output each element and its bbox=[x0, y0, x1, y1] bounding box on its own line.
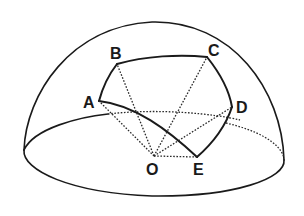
arc-EA bbox=[99, 101, 197, 157]
radius-OE bbox=[154, 156, 197, 157]
arc-DE bbox=[197, 107, 232, 157]
label-E: E bbox=[193, 161, 204, 178]
hemisphere-dome-outline bbox=[24, 22, 284, 160]
radius-OA bbox=[99, 101, 154, 156]
arc-BC bbox=[117, 56, 207, 64]
label-B: B bbox=[110, 45, 122, 62]
hemisphere-diagram: A B C D E O bbox=[0, 0, 304, 216]
base-ellipse-back-right bbox=[226, 123, 284, 158]
label-C: C bbox=[208, 42, 220, 59]
arc-CD bbox=[207, 57, 232, 107]
radius-OB bbox=[117, 64, 154, 156]
label-O: O bbox=[146, 161, 158, 178]
base-ellipse-back-left bbox=[24, 114, 108, 150]
arc-AB bbox=[99, 64, 117, 101]
label-A: A bbox=[83, 94, 95, 111]
label-D: D bbox=[236, 99, 248, 116]
